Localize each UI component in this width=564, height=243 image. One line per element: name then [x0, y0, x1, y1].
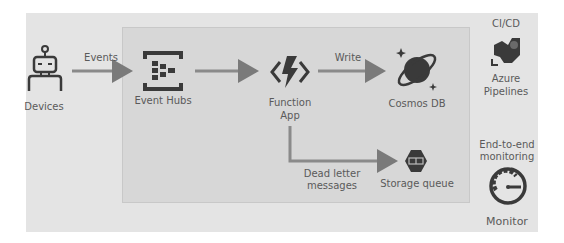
pipelines-label-line1: Azure — [480, 73, 532, 85]
function-lightning-icon — [270, 52, 310, 92]
function-app-label-line1: Function — [260, 97, 320, 109]
function-app-label-line2: App — [260, 110, 320, 122]
devices-label: Devices — [21, 101, 67, 113]
event-hubs-icon — [143, 51, 183, 91]
gauge-icon — [488, 166, 528, 206]
dead-letter-arrow — [290, 126, 395, 161]
pipelines-icon — [490, 35, 522, 67]
cosmos-db-label: Cosmos DB — [385, 98, 449, 110]
events-edge-label: Events — [78, 52, 124, 64]
event-hubs-label: Event Hubs — [128, 95, 198, 107]
cicd-header: CI/CD — [484, 18, 528, 30]
monitoring-header-line2: monitoring — [478, 151, 536, 163]
write-edge-label: Write — [328, 52, 368, 64]
dead-letter-label-line2: messages — [300, 180, 364, 192]
monitor-label: Monitor — [478, 216, 536, 228]
pipelines-label-line2: Pipelines — [480, 86, 532, 98]
monitoring-header-line1: End-to-end — [478, 139, 536, 151]
dead-letter-label-line1: Dead letter — [300, 168, 364, 180]
storage-queue-icon — [404, 149, 428, 173]
robot-icon — [26, 45, 64, 95]
cosmos-planet-icon — [393, 45, 441, 95]
storage-queue-label: Storage queue — [380, 178, 454, 190]
